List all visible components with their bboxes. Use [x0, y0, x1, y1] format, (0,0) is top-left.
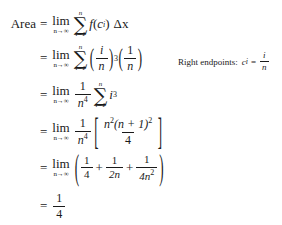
limit-lim-text-5: lim	[52, 157, 69, 170]
plus-sign-2: +	[126, 160, 133, 176]
close-paren-2b: )	[138, 42, 142, 74]
open-paren-5: (	[75, 146, 79, 189]
numerator-factor-exponent: 2	[148, 116, 152, 125]
denominator-exponent: 4	[84, 132, 88, 141]
close-paren-2a: )	[109, 42, 113, 74]
limit-lim-text-2: lim	[52, 48, 69, 61]
limit-lim-text-4: lim	[52, 121, 69, 134]
open-bracket: [	[94, 108, 98, 154]
limit-operator-2: lim n→∞	[52, 48, 69, 69]
fraction-denominator: n	[260, 61, 269, 72]
fraction-numerator: 1	[77, 117, 89, 131]
fraction-i-over-n: i n	[96, 44, 108, 72]
fraction-denominator: 4	[53, 206, 65, 221]
coefficient-1-over-n4: 1 n4	[75, 117, 91, 146]
area-label: Area	[0, 16, 40, 32]
summand-exponent: 3	[113, 90, 117, 99]
limit-subscript-2: n→∞	[53, 62, 68, 69]
fraction-1-over-n: 1 n	[124, 44, 136, 72]
fraction-numerator: i	[261, 51, 268, 61]
fraction-numerator: 1	[141, 154, 153, 167]
limit-lim-text-1: lim	[52, 14, 69, 27]
fraction-denominator: 4n2	[136, 167, 157, 182]
open-paren-2b: (	[118, 42, 122, 74]
equals-sign-5: =	[40, 160, 52, 176]
annotation-fraction-i-over-n: i n	[260, 51, 269, 73]
equation-line-6: = 1 4	[0, 192, 66, 220]
fraction-denominator: 4	[122, 132, 134, 147]
factor-i-over-n-cubed: ( i n ) 3	[89, 44, 118, 72]
numerator-factor: (n + 1)	[114, 117, 148, 131]
result-one-quarter: 1 4	[53, 192, 65, 220]
factor-one-over-n: ( 1 n )	[118, 44, 143, 72]
derivation-block: Area = lim n→∞ n ∑ i=1 f(ci) Δx = lim n→…	[0, 0, 282, 225]
fraction-numerator: i	[97, 44, 106, 58]
close-paren-1: )	[105, 16, 109, 32]
limit-operator-3: lim n→∞	[52, 84, 69, 105]
equals-sign-4: =	[40, 124, 52, 140]
fraction-denominator: 2n	[106, 167, 123, 181]
equation-line-4: = lim n→∞ 1 n4 [ n2(n + 1)2 4 ]	[0, 117, 163, 146]
equation-line-5: = lim n→∞ ( 1 4 + 1 2n + 1 4n2 )	[0, 154, 165, 182]
fraction-denominator: n4	[75, 94, 91, 110]
right-endpoints-annotation: Right endpoints: ci = i n	[178, 51, 270, 73]
fraction-numerator: 1	[81, 155, 93, 168]
equation-line-3: = lim n→∞ 1 n4 n ∑ i=1 i3	[0, 80, 117, 109]
fraction-numerator: 1	[109, 155, 121, 168]
equation-line-1: Area = lim n→∞ n ∑ i=1 f(ci) Δx	[0, 10, 128, 38]
delta-x-term: Δx	[114, 16, 129, 32]
summation-lower-limit-1: i=1	[75, 31, 85, 38]
fraction-denominator: 4	[81, 167, 93, 181]
equals-sign-1: =	[40, 16, 52, 32]
fraction-sum-formula: n2(n + 1)2 4	[101, 117, 155, 146]
limit-subscript-4: n→∞	[53, 135, 68, 142]
term-one-over-2n: 1 2n	[106, 155, 123, 181]
plus-sign-1: +	[96, 160, 103, 176]
summation-lower-limit-2: i=1	[75, 65, 85, 72]
term-one-quarter: 1 4	[81, 155, 93, 181]
denominator-base: 4n	[139, 169, 150, 181]
denominator-exponent: 2	[150, 168, 154, 177]
summand-i-cubed: i3	[109, 87, 117, 103]
limit-lim-text-3: lim	[52, 84, 69, 97]
close-paren-5: )	[159, 146, 163, 189]
fraction-numerator: 1	[53, 192, 65, 206]
equals-sign-2: =	[40, 50, 52, 66]
annotation-variable: ci	[242, 57, 248, 67]
summation-operator-2: n ∑ i=1	[74, 44, 88, 72]
summation-operator-1: n ∑ i=1	[74, 10, 88, 38]
limit-operator-5: lim n→∞	[52, 157, 69, 178]
annotation-label: Right endpoints:	[178, 57, 238, 67]
coefficient-1-over-n4: 1 n4	[75, 80, 91, 109]
fraction-denominator: n4	[75, 131, 91, 147]
fraction-numerator: 1	[124, 44, 136, 58]
fraction-numerator: 1	[77, 80, 89, 94]
summand-expression-1: f(ci)	[89, 16, 109, 32]
equals-sign-3: =	[40, 87, 52, 103]
term-one-over-4n2: 1 4n2	[136, 154, 157, 182]
limit-subscript-3: n→∞	[53, 98, 68, 105]
summation-lower-limit-3: i=1	[95, 102, 105, 109]
fraction-denominator: n	[124, 58, 136, 73]
summation-operator-3: n ∑ i=1	[94, 81, 108, 109]
equation-line-2: = lim n→∞ n ∑ i=1 ( i n ) 3 ( 1 n )	[0, 44, 143, 72]
limit-subscript-5: n→∞	[53, 171, 68, 178]
open-paren-2a: (	[90, 42, 94, 74]
limit-subscript-1: n→∞	[53, 28, 68, 35]
fraction-numerator: n2(n + 1)2	[101, 117, 155, 132]
limit-operator-4: lim n→∞	[52, 121, 69, 142]
fraction-denominator: n	[96, 58, 108, 73]
denominator-exponent: 4	[84, 95, 88, 104]
annotation-subscript-i: i	[246, 57, 248, 66]
annotation-equals-sign: =	[251, 57, 256, 67]
equals-sign-6: =	[40, 198, 52, 214]
limit-operator-1: lim n→∞	[52, 14, 69, 35]
